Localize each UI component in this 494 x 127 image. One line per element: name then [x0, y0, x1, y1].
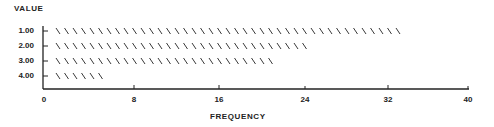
hatched-bars [56, 28, 400, 79]
bar-4.00 [56, 73, 103, 79]
x-tick-label-24: 24 [295, 95, 315, 104]
x-tick-label-16: 16 [209, 95, 229, 104]
x-tick-label-0: 0 [34, 95, 54, 104]
bar-3.00 [56, 58, 273, 64]
chart-plot [0, 0, 494, 127]
x-axis [43, 85, 469, 89]
x-tick-label-40: 40 [458, 95, 478, 104]
x-axis-title: FREQUENCY [210, 112, 266, 121]
bar-2.00 [56, 43, 307, 49]
x-tick-label-32: 32 [378, 95, 398, 104]
x-tick-label-8: 8 [124, 95, 144, 104]
bar-1.00 [56, 28, 400, 34]
y-axis [43, 26, 48, 89]
